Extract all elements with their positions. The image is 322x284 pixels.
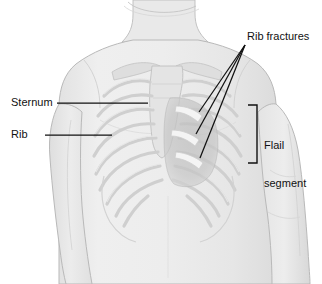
label-rib: Rib [11,128,28,141]
figure-container: Sternum Rib Rib fractures Flail segment [0,0,322,284]
label-sternum: Sternum [11,96,53,109]
label-flail-segment-line2: segment [264,177,306,190]
label-rib-fractures: Rib fractures [247,30,309,43]
label-flail-segment: Flail segment [264,114,306,214]
label-flail-segment-line1: Flail [264,139,306,152]
